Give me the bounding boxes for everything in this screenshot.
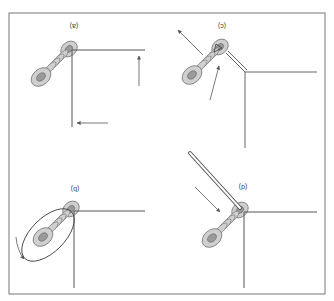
- panel-d-label: (d): [239, 183, 248, 191]
- panel-c: (c): [178, 22, 317, 148]
- insulator-wiring-diagram: (a) (c) (b) (d): [0, 0, 334, 301]
- panel-b-label: (b): [71, 185, 80, 193]
- panel-b: (b): [13, 185, 145, 288]
- panel-c-label: (c): [218, 22, 226, 30]
- panel-a: (a): [27, 22, 145, 127]
- panel-a-label: (a): [70, 22, 79, 30]
- panel-d: (d): [190, 153, 317, 288]
- diagram-frame: [9, 13, 325, 294]
